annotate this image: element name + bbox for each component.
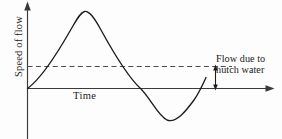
- x-axis-label: Time: [73, 91, 96, 102]
- y-axis-arrowhead-icon: [24, 2, 31, 11]
- hutch-water-annotation: Flow due to hutch water: [216, 54, 265, 75]
- speed-of-flow-diagram: Speed of flow Time Flow due to hutch wat…: [0, 0, 282, 139]
- x-axis-arrowhead-icon: [266, 85, 275, 92]
- y-axis-label: Speed of flow: [14, 9, 25, 83]
- hutch-water-annotation-line1: Flow due to: [216, 53, 265, 64]
- hutch-water-annotation-line2: hutch water: [216, 65, 265, 76]
- measure-arrowhead-down-icon: [213, 85, 218, 91]
